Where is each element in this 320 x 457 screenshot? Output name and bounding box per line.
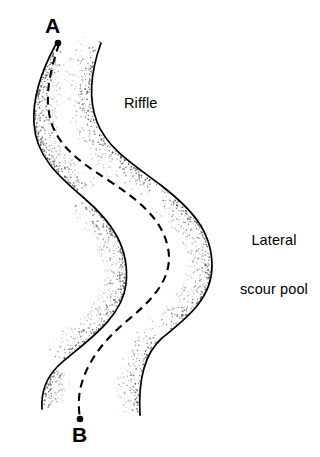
- lateral-scour-pool-label-line2: scour pool: [240, 281, 308, 297]
- stream-meander-figure: A B Riffle Lateral scour pool: [0, 0, 320, 457]
- lateral-scour-pool-label: Lateral scour pool: [240, 200, 308, 330]
- point-a-label: A: [45, 14, 60, 38]
- point-a-dot: [55, 40, 62, 47]
- riffle-label: Riffle: [124, 95, 157, 111]
- point-b-dot: [77, 416, 84, 423]
- lateral-scour-pool-label-line1: Lateral: [240, 232, 308, 248]
- point-b-label: B: [72, 423, 87, 447]
